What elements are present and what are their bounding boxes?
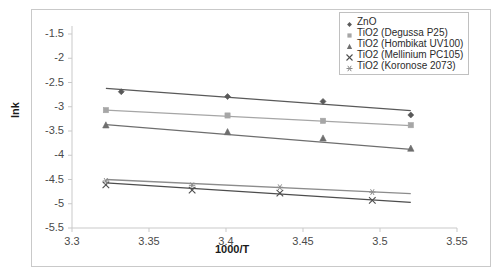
trendline-tio2-degussa-p25 (106, 110, 411, 126)
datapoint-tio2-degussa-p25 (408, 123, 413, 128)
trendline-tio2-mellinium-pc105 (106, 183, 411, 202)
datapoint-tio2-degussa-p25 (225, 113, 230, 118)
trendline-tio2-koronose-2073 (106, 180, 411, 194)
y-tick-label: -5 (24, 198, 64, 209)
y-tick-label: -2.5 (24, 77, 64, 88)
x-tick-label: 3.3 (50, 236, 94, 247)
x-tick-label: 3.35 (127, 236, 171, 247)
diamond-marker-icon (344, 16, 355, 27)
square-marker-icon (344, 27, 355, 38)
datapoint-tio2-degussa-p25 (320, 118, 325, 123)
datapoint-tio2-hombikat-uv100 (408, 145, 414, 151)
y-tick-label: -4.5 (24, 174, 64, 185)
y-tick-label: -3.5 (24, 125, 64, 136)
datapoint-tio2-hombikat-uv100 (224, 129, 230, 135)
legend-item-label: TiO2 (Mellinium PC105) (357, 49, 463, 60)
x-tick-label: 3.55 (435, 236, 479, 247)
legend-item[interactable]: TiO2 (Mellinium PC105) (344, 49, 463, 60)
legend-item[interactable]: TiO2 (Hombikat UV100) (344, 38, 463, 49)
datapoint-zno (408, 112, 414, 118)
datapoint-tio2-hombikat-uv100 (320, 135, 326, 141)
y-tick-label: -3 (24, 101, 64, 112)
legend-item-label: TiO2 (Degussa P25) (357, 27, 448, 38)
chart-legend: ZnOTiO2 (Degussa P25)TiO2 (Hombikat UV10… (339, 12, 469, 75)
y-tick-label: -4 (24, 149, 64, 160)
y-axis-title: lnk (9, 102, 21, 118)
y-tick-label: -5.5 (24, 222, 64, 233)
y-tick-label: -1.5 (24, 28, 64, 39)
cross-marker-icon (344, 49, 355, 60)
datapoint-tio2-degussa-p25 (103, 108, 108, 113)
legend-item-label: TiO2 (Koronose 2073) (357, 60, 456, 71)
y-tick-label: -2 (24, 52, 64, 63)
legend-item-label: ZnO (357, 16, 376, 27)
legend-item[interactable]: TiO2 (Degussa P25) (344, 27, 463, 38)
triangle-marker-icon (344, 38, 355, 49)
x-tick-label: 3.45 (281, 236, 325, 247)
trendline-tio2-hombikat-uv100 (106, 125, 411, 150)
x-tick-label: 3.4 (204, 236, 248, 247)
chart-figure: lnk 1000/T -1.5-2-2.5-3-3.5-4-4.5-5-5.53… (0, 0, 498, 280)
legend-item-label: TiO2 (Hombikat UV100) (357, 38, 463, 49)
legend-item[interactable]: ZnO (344, 16, 463, 27)
asterisk-marker-icon (344, 60, 355, 71)
x-tick-label: 3.5 (358, 236, 402, 247)
trendline-zno (106, 88, 411, 110)
datapoint-zno (225, 94, 231, 100)
legend-item[interactable]: TiO2 (Koronose 2073) (344, 60, 463, 71)
